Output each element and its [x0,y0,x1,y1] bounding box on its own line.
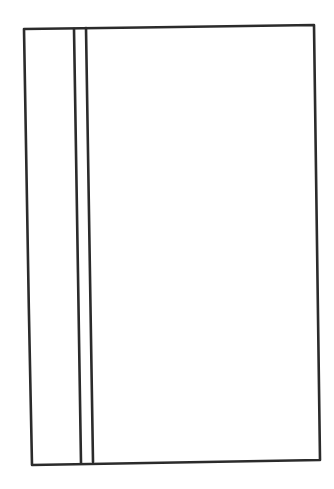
spine-line-right [86,28,93,462]
spine-line-left [74,29,81,463]
sketch-canvas [0,0,334,489]
outer-rectangle [24,25,320,465]
